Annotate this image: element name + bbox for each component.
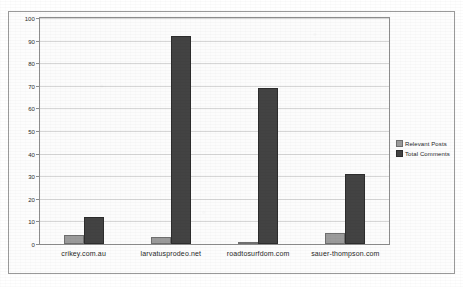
bar-group xyxy=(40,18,127,244)
y-tick-label-50: 50 xyxy=(28,129,35,135)
x-axis: crikey.com.aularvatusprodeo.netroadtosur… xyxy=(40,248,389,264)
x-tick-label: roadtosurfdom.com xyxy=(227,250,290,257)
y-tick-label-60: 60 xyxy=(28,106,35,112)
legend-item[interactable]: Relevant Posts xyxy=(396,140,454,147)
y-tick-label-30: 30 xyxy=(28,174,35,180)
y-tick-label-10: 10 xyxy=(28,219,35,225)
x-tick-label: sauer-thompson.com xyxy=(311,250,379,257)
bar-total-comments[interactable] xyxy=(171,36,191,244)
y-tick-label-40: 40 xyxy=(28,152,35,158)
bar-relevant-posts[interactable] xyxy=(238,242,258,244)
legend-item[interactable]: Total Comments xyxy=(396,150,454,157)
bar-group xyxy=(302,18,389,244)
legend-item-label: Total Comments xyxy=(405,151,450,157)
bar-group xyxy=(215,18,302,244)
bar-total-comments[interactable] xyxy=(258,88,278,244)
y-tick-label-70: 70 xyxy=(28,84,35,90)
bar-relevant-posts[interactable] xyxy=(64,235,84,244)
bar-total-comments[interactable] xyxy=(345,174,365,244)
bar-group xyxy=(127,18,214,244)
y-axis: 0102030405060708090100 xyxy=(9,17,39,245)
bar-total-comments[interactable] xyxy=(84,217,104,244)
legend-swatch-icon xyxy=(396,150,403,157)
y-tick-label-20: 20 xyxy=(28,197,35,203)
x-tick-label: crikey.com.au xyxy=(61,250,106,257)
y-tick-label-0: 0 xyxy=(32,242,35,248)
y-tick-label-100: 100 xyxy=(25,16,35,22)
y-tick-label-80: 80 xyxy=(28,61,35,67)
chart-frame: 0102030405060708090100 crikey.com.aularv… xyxy=(8,11,455,274)
bar-relevant-posts[interactable] xyxy=(325,233,345,244)
x-tick-label: larvatusprodeo.net xyxy=(141,250,202,257)
gridline-0 xyxy=(40,244,389,245)
bars-layer xyxy=(40,18,389,244)
bar-relevant-posts[interactable] xyxy=(151,237,171,244)
legend-item-label: Relevant Posts xyxy=(405,141,447,147)
y-tick-label-90: 90 xyxy=(28,39,35,45)
chart-legend: Relevant PostsTotal Comments xyxy=(396,140,454,160)
legend-swatch-icon xyxy=(396,140,403,147)
